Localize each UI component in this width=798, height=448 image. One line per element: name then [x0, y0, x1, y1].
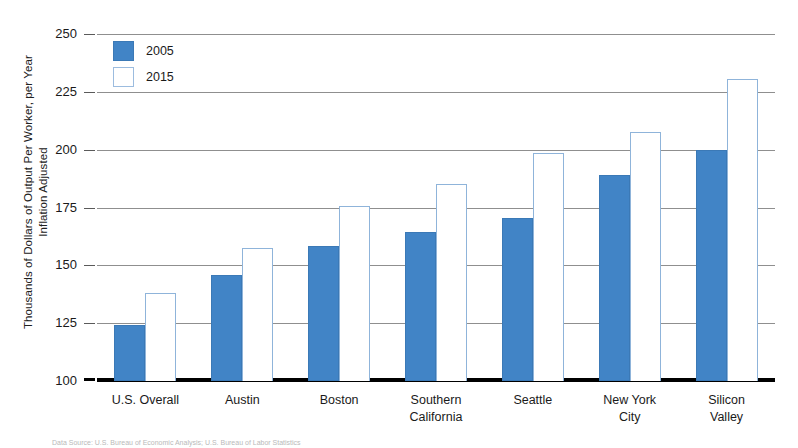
bar-2005[interactable] [114, 325, 145, 381]
x-axis-labels: U.S. OverallAustinBostonSouthernCaliforn… [97, 392, 775, 438]
x-axis-label: U.S. Overall [97, 392, 194, 409]
legend-swatch-2005-icon [113, 41, 134, 61]
y-tick-label-150: 150 [17, 257, 77, 272]
bar-group [696, 34, 758, 381]
legend-item-2005[interactable]: 2005 [113, 40, 233, 62]
x-axis-label-line: Southern [388, 392, 485, 409]
y-tick-mark-250 [84, 34, 95, 35]
bar-2005[interactable] [696, 150, 727, 381]
bar-2015[interactable] [630, 132, 661, 381]
x-axis-label-line: Austin [194, 392, 291, 409]
y-tick-label-250: 250 [17, 26, 77, 41]
legend-item-2015[interactable]: 2015 [113, 66, 233, 88]
bar-group [405, 34, 467, 381]
y-tick-label-200: 200 [17, 142, 77, 157]
bar-2015[interactable] [533, 153, 564, 381]
y-tick-mark-100 [84, 378, 95, 381]
bar-2005[interactable] [502, 218, 533, 381]
x-axis-label-line: Boston [291, 392, 388, 409]
y-tick-label-100: 100 [17, 373, 77, 388]
y-tick-mark-125 [84, 323, 95, 324]
bar-2015[interactable] [339, 206, 370, 381]
x-axis-label-line: Seattle [484, 392, 581, 409]
legend-label-2005: 2005 [146, 44, 174, 58]
bar-2015[interactable] [436, 184, 467, 381]
source-note: Data Source: U.S. Bureau of Economic Ana… [52, 439, 301, 446]
x-axis-label: SiliconValley [678, 392, 775, 426]
bar-2005[interactable] [599, 175, 630, 381]
bar-2005[interactable] [211, 275, 242, 381]
y-tick-mark-175 [84, 208, 95, 209]
bar-group [308, 34, 370, 381]
bar-2015[interactable] [727, 79, 758, 381]
x-axis-label-line: U.S. Overall [97, 392, 194, 409]
y-tick-label-225: 225 [17, 84, 77, 99]
x-axis-label: SouthernCalifornia [388, 392, 485, 426]
y-axis-title-line-2: Inflation Adjusted [36, 147, 51, 236]
x-axis-label: New YorkCity [581, 392, 678, 426]
y-tick-label-175: 175 [17, 200, 77, 215]
x-axis-label: Boston [291, 392, 388, 409]
y-tick-mark-150 [84, 265, 95, 266]
legend-swatch-2015-icon [113, 67, 134, 87]
x-axis-label: Seattle [484, 392, 581, 409]
y-tick-label-125: 125 [17, 315, 77, 330]
bar-group [502, 34, 564, 381]
y-tick-mark-225 [84, 92, 95, 93]
x-axis-label-line: New York [581, 392, 678, 409]
bar-chart: Thousands of Dollars of Output Per Worke… [0, 0, 798, 448]
y-tick-mark-200 [84, 150, 95, 151]
x-axis-label-line: California [388, 409, 485, 426]
bar-2015[interactable] [145, 293, 176, 381]
x-axis-label-line: Silicon [678, 392, 775, 409]
bar-group [599, 34, 661, 381]
legend-label-2015: 2015 [146, 70, 174, 84]
x-axis-label-line: City [581, 409, 678, 426]
bar-2005[interactable] [308, 246, 339, 381]
bar-2005[interactable] [405, 232, 436, 381]
x-axis-label: Austin [194, 392, 291, 409]
bar-2015[interactable] [242, 248, 273, 381]
chart-legend: 2005 2015 [113, 40, 233, 92]
x-axis-label-line: Valley [678, 409, 775, 426]
